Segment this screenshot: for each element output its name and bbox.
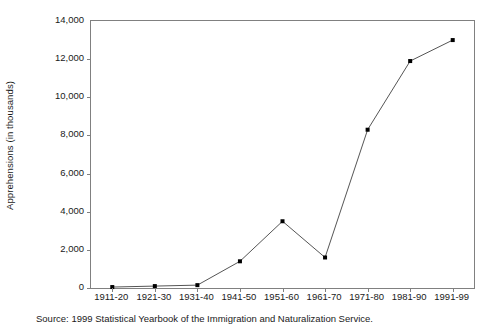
data-point-marker	[366, 128, 370, 132]
y-axis-tick-mark	[87, 288, 91, 289]
y-axis-tick-label: 10,000	[26, 91, 84, 101]
plot-area	[90, 20, 475, 289]
chart-figure: Apprehensions (in thousands) 02,0004,000…	[0, 0, 495, 331]
line-series-svg	[91, 21, 474, 288]
x-axis-tick-labels: 1911-201921-301931-401941-501951-601961-…	[0, 291, 495, 307]
data-point-marker	[323, 255, 327, 259]
data-point-marker	[451, 38, 455, 42]
y-axis-tick-label: 2,000	[26, 244, 84, 254]
data-point-marker	[195, 283, 199, 287]
series-line	[112, 40, 452, 287]
y-axis-tick-label: 4,000	[26, 206, 84, 216]
y-axis-title-text: Apprehensions (in thousands)	[5, 80, 16, 209]
y-axis-tick-mark	[87, 59, 91, 60]
source-note: Source: 1999 Statistical Yearbook of the…	[36, 313, 373, 325]
data-point-marker	[281, 219, 285, 223]
y-axis-tick-mark	[87, 212, 91, 213]
y-axis-tick-label: 6,000	[26, 168, 84, 178]
y-axis-tick-label: 8,000	[26, 129, 84, 139]
y-axis-tick-label: 12,000	[26, 53, 84, 63]
x-axis-tick-label: 1991-99	[417, 291, 487, 303]
data-point-marker	[238, 259, 242, 263]
y-axis-tick-mark	[87, 135, 91, 136]
y-axis-title: Apprehensions (in thousands)	[0, 0, 20, 290]
y-axis-tick-label: 14,000	[26, 15, 84, 25]
y-axis-tick-mark	[87, 97, 91, 98]
y-axis-tick-mark	[87, 250, 91, 251]
data-point-marker	[408, 59, 412, 63]
y-axis-tick-labels: 02,0004,0006,0008,00010,00012,00014,000	[22, 0, 84, 331]
y-axis-tick-mark	[87, 174, 91, 175]
